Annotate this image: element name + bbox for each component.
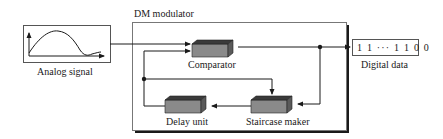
digital-data-label: Digital data	[361, 60, 408, 70]
analog-signal-label: Analog signal	[37, 67, 93, 77]
delay-unit-label: Delay unit	[166, 117, 208, 127]
dm-modulator-box	[133, 23, 350, 134]
staircase-maker-block	[251, 96, 292, 113]
analog-signal-box	[24, 26, 111, 63]
staircase-maker-label: Staircase maker	[246, 117, 310, 127]
comparator-block	[192, 40, 233, 57]
digital-data-value: 1 1 ··· 1 1 0 0	[357, 43, 430, 53]
delay-unit-block	[165, 96, 206, 113]
comparator-label: Comparator	[188, 60, 236, 70]
dm-modulator-title: DM modulator	[134, 9, 194, 19]
